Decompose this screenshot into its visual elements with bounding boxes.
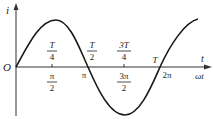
sine-wave-diagram: i O t ωt T 4 T 2 3T 4 T π 2 π 3π 2 2π	[0, 0, 213, 119]
svg-text:T: T	[49, 40, 55, 50]
x-axis-label-t: t	[201, 53, 204, 64]
tick-label-2pi: 2π	[162, 70, 172, 80]
tick-label-T: T	[152, 55, 158, 65]
y-axis-label: i	[6, 4, 9, 16]
tick-label-T-over-2: T 2	[87, 40, 97, 62]
svg-text:2: 2	[50, 83, 55, 93]
svg-text:T: T	[89, 40, 95, 50]
tick-label-3pi-over-2: 3π 2	[117, 71, 131, 93]
tick-label-pi: π	[82, 70, 87, 80]
x-axis-arrow-icon	[204, 65, 212, 70]
x-axis-label-omega-t: ωt	[195, 71, 204, 81]
origin-label: O	[3, 61, 11, 73]
svg-text:4: 4	[50, 52, 55, 62]
svg-text:4: 4	[122, 52, 127, 62]
svg-text:π: π	[50, 71, 55, 81]
svg-text:2: 2	[122, 83, 127, 93]
svg-text:3π: 3π	[119, 71, 129, 81]
tick-label-3T-over-4: 3T 4	[117, 40, 131, 62]
svg-text:3T: 3T	[118, 40, 130, 50]
tick-label-T-over-4: T 4	[47, 40, 57, 62]
y-axis-arrow-icon	[14, 3, 19, 10]
svg-text:2: 2	[90, 52, 95, 62]
tick-label-pi-over-2: π 2	[47, 71, 57, 93]
